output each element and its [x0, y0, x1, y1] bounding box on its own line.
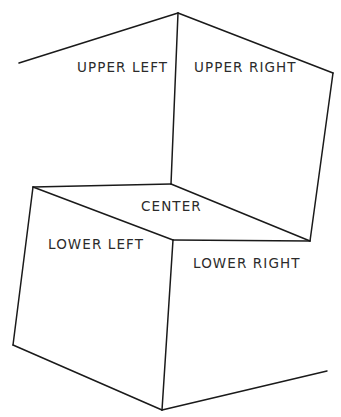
- edge-vertical-upper: [171, 13, 178, 184]
- edge-bottom-left-edge: [13, 345, 162, 410]
- edge-top-left-fold: [33, 184, 171, 187]
- edge-right-side: [310, 73, 333, 241]
- label-upper-right: UPPER RIGHT: [194, 61, 297, 75]
- label-lower-left: LOWER LEFT: [48, 238, 144, 252]
- edge-inner-right-fold: [173, 240, 310, 241]
- necker-cube-figure: UPPER LEFT UPPER RIGHT CENTER LOWER LEFT…: [0, 0, 341, 417]
- label-lower-right: LOWER RIGHT: [193, 257, 301, 271]
- edge-left-side: [13, 187, 33, 345]
- label-upper-left: UPPER LEFT: [77, 61, 168, 75]
- edge-vertical-lower: [162, 240, 173, 410]
- edge-upper-left-roof: [19, 13, 178, 63]
- edge-bottom-right-edge: [162, 371, 327, 410]
- label-center: CENTER: [141, 200, 202, 214]
